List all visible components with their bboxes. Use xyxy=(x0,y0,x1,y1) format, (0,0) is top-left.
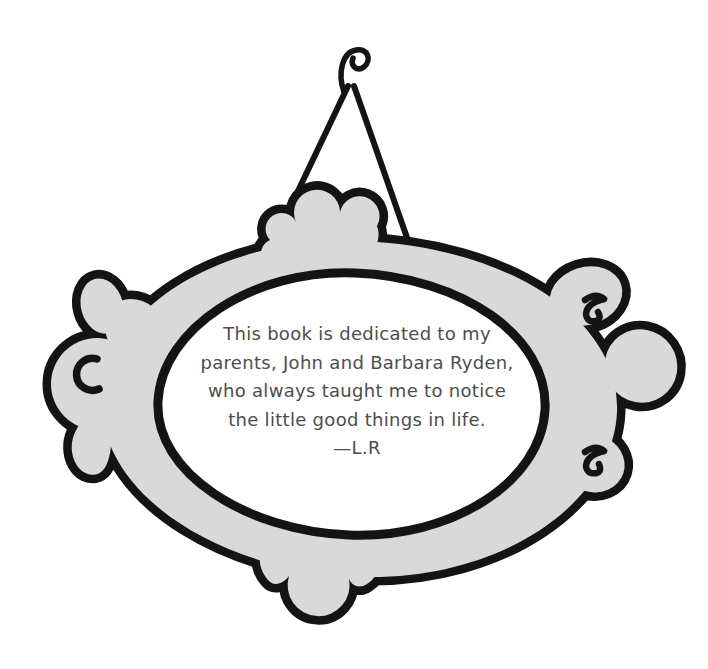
dedication-line-2: parents, John and Barbara Ryden, xyxy=(200,349,513,378)
dedication-page: This book is dedicated to my parents, Jo… xyxy=(0,0,708,669)
dedication-line-3: who always taught me to notice xyxy=(200,377,513,406)
dedication-text: This book is dedicated to my parents, Jo… xyxy=(200,320,513,463)
dedication-line-4: the little good things in life. xyxy=(200,406,513,435)
dedication-signature: —L.R xyxy=(200,434,513,463)
dedication-line-1: This book is dedicated to my xyxy=(200,320,513,349)
